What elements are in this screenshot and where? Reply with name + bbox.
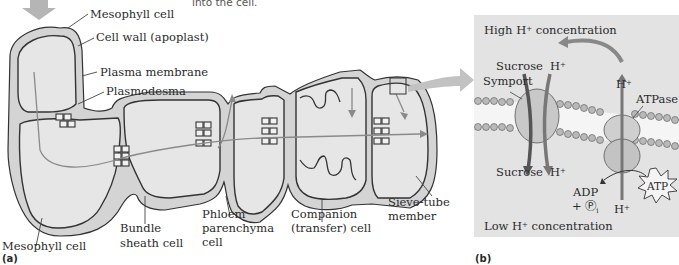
atpase-label: ATPase <box>636 93 678 106</box>
low-h-concentration-label: Low H+ concentration <box>484 220 613 233</box>
h-bottom-label: H+ <box>550 166 566 179</box>
atp-label: ATP <box>647 180 668 193</box>
h-cycle-arrow <box>566 41 622 62</box>
h-atpase-top-label: H+ <box>616 78 632 91</box>
symport-protein <box>515 89 559 143</box>
high-h-concentration-label: High H+ concentration <box>484 24 617 37</box>
symport-label: Symport <box>483 75 533 88</box>
panel-b-tag: (b) <box>475 252 491 265</box>
h-top-label: H+ <box>550 60 566 73</box>
h-atpase-bottom-label: H+ <box>614 203 630 216</box>
sucrose-bottom-label: Sucrose <box>496 166 543 179</box>
adp-label: ADP <box>573 186 598 199</box>
pi-label: + Ⓟi <box>572 200 599 218</box>
sucrose-top-label: Sucrose <box>496 60 543 73</box>
